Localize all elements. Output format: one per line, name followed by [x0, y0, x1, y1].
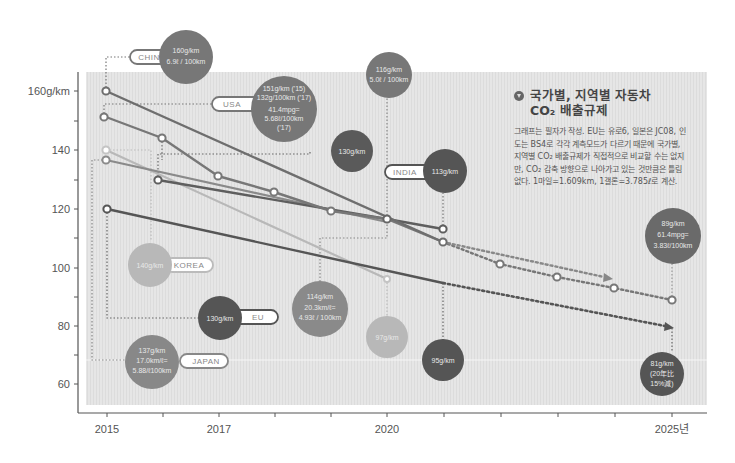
marker-usa-2016 — [158, 134, 165, 141]
marker-usa-2015 — [100, 113, 107, 120]
svg-text:130g/km: 130g/km — [207, 315, 234, 323]
marker-usa-2025 — [668, 296, 675, 303]
y-tick-100: 100 — [52, 262, 70, 274]
bubble-india-2020: 116g/km 5.0ℓ / 100km — [366, 52, 412, 98]
svg-text:41.4mpg=: 41.4mpg= — [268, 106, 299, 114]
y-axis: 160g/km 140 120 100 80 60 — [28, 72, 78, 413]
svg-text:116g/km: 116g/km — [376, 66, 402, 74]
bubble-eu-2015: 130g/km — [198, 296, 242, 340]
svg-text:(20年比: (20年比 — [650, 369, 674, 378]
svg-text:151g/km ('15): 151g/km ('15) — [263, 85, 306, 93]
marker-india-2016 — [154, 176, 161, 183]
bubble-eu-2021: 95g/km — [422, 339, 464, 381]
tag-japan: JAPAN — [180, 354, 228, 368]
svg-text:USA: USA — [223, 100, 241, 109]
y-tick-60: 60 — [58, 378, 70, 390]
co2-regulation-chart: 160g/km 140 120 100 80 60 2015 2017 2020… — [0, 0, 735, 463]
chevron-down-circle-icon — [514, 91, 524, 101]
svg-text:130g/km: 130g/km — [339, 148, 366, 156]
marker-convergence-2020 — [383, 215, 390, 222]
svg-text:132g/100km ('17): 132g/100km ('17) — [257, 94, 311, 102]
y-tick-140: 140 — [52, 144, 70, 156]
svg-text:140g/km: 140g/km — [137, 262, 164, 270]
x-axis: 2015 2017 2020 2025년 — [78, 413, 707, 435]
svg-text:('17): ('17) — [277, 124, 291, 132]
svg-text:61.4mpg=: 61.4mpg= — [657, 231, 688, 239]
x-tick-2017: 2017 — [207, 423, 231, 435]
marker-china-2021 — [439, 238, 446, 245]
svg-text:114g/km: 114g/km — [307, 293, 333, 301]
marker-usa-2024 — [610, 284, 617, 291]
marker-india-2021 — [439, 225, 446, 232]
svg-text:KOREA: KOREA — [174, 261, 205, 270]
svg-text:15%減): 15%減) — [650, 379, 673, 388]
y-tick-80: 80 — [58, 320, 70, 332]
marker-usa-2017 — [214, 172, 221, 179]
svg-text:5.0ℓ / 100km: 5.0ℓ / 100km — [370, 76, 409, 83]
chart-title-line1: 국가별, 지역별 자동차 — [530, 88, 651, 103]
svg-text:3.83ℓ/100km: 3.83ℓ/100km — [654, 242, 693, 249]
x-tick-2015: 2015 — [95, 423, 119, 435]
svg-text:89g/km: 89g/km — [662, 220, 685, 228]
bubble-usa-2015: 151g/km ('15) 132g/100km ('17) 41.4mpg= … — [251, 76, 317, 142]
x-tick-2020: 2020 — [375, 423, 399, 435]
tag-korea: KOREA — [165, 258, 213, 272]
y-tick-160: 160g/km — [28, 85, 70, 97]
marker-eu-2015 — [103, 205, 110, 212]
svg-text:5.88/ℓ100km: 5.88/ℓ100km — [133, 367, 172, 374]
bubble-korea-2015: 140g/km — [128, 243, 172, 287]
x-tick-2025: 2025년 — [655, 423, 689, 435]
bubble-japan-2015: 137g/km 17.0km/ℓ= 5.88/ℓ100km — [125, 335, 179, 389]
chart-legend: 국가별, 지역별 자동차 CO₂ 배출규제 그래프는 필자가 작성. EU는 유… — [514, 88, 714, 189]
bubble-korea-2020: 97g/km — [366, 316, 408, 358]
svg-text:97g/km: 97g/km — [376, 334, 399, 342]
y-tick-120: 120 — [52, 203, 70, 215]
marker-usa-2023 — [553, 273, 560, 280]
chart-description: 그래프는 필자가 작성. EU는 유로6, 일본은 JC08, 인도는 BS4로… — [514, 126, 689, 189]
svg-text:INDIA: INDIA — [393, 168, 417, 177]
svg-text:137g/km: 137g/km — [139, 347, 166, 355]
marker-usa-2022 — [496, 260, 503, 267]
bubble-india-2021: 113g/km — [423, 149, 467, 193]
svg-text:113g/km: 113g/km — [432, 168, 458, 176]
marker-china-2015 — [102, 87, 109, 94]
marker-usa-2018 — [270, 188, 277, 195]
svg-text:160g/km: 160g/km — [173, 47, 200, 55]
svg-text:JAPAN: JAPAN — [192, 357, 220, 366]
bubble-china-2015: 160g/km 6.9ℓ / 100km — [159, 30, 213, 84]
bubble-usa-2025: 89g/km 61.4mpg= 3.83ℓ/100km — [645, 208, 701, 264]
marker-japan-2015 — [102, 156, 109, 163]
bubble-eu-2025: 81g/km (20年比 15%減) — [640, 352, 684, 396]
svg-text:17.0km/ℓ=: 17.0km/ℓ= — [136, 357, 167, 364]
svg-text:81g/km: 81g/km — [651, 360, 674, 368]
svg-text:20.3km/ℓ=: 20.3km/ℓ= — [304, 304, 335, 311]
marker-korea-2015 — [102, 146, 109, 153]
svg-text:EU: EU — [252, 313, 264, 322]
svg-text:4.93ℓ / 100km: 4.93ℓ / 100km — [299, 314, 342, 321]
svg-text:5.68ℓ/100km: 5.68ℓ/100km — [265, 115, 304, 122]
marker-usa-2019 — [327, 207, 334, 214]
marker-korea-2020 — [384, 276, 390, 282]
svg-text:6.9ℓ / 100km: 6.9ℓ / 100km — [167, 58, 206, 65]
bubble-japan-2020: 114g/km 20.3km/ℓ= 4.93ℓ / 100km — [292, 281, 348, 337]
chart-title-line2: CO₂ 배출규제 — [514, 103, 714, 118]
svg-text:95g/km: 95g/km — [432, 357, 455, 365]
chart-title: 국가별, 지역별 자동차 CO₂ 배출규제 — [514, 88, 714, 118]
bubble-130g: 130g/km — [331, 130, 373, 172]
